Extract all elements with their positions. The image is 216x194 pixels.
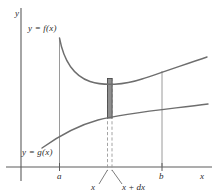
curve-label-f: y = f(x) [28,24,57,33]
y-axis-label: y [15,9,19,18]
x-axis-label: x [200,172,204,181]
curve-f [60,38,208,84]
tick-label-a: a [57,172,62,181]
curve-g [42,104,208,148]
tick-label-x: x [91,183,95,192]
leader-line-x [99,170,108,184]
leader-line-x-plus-dx [112,170,122,184]
figure-container: y x y = f(x) y = g(x) a b x x + dx [0,0,216,194]
tick-label-b: b [159,172,164,181]
curve-label-g: y = g(x) [22,148,53,157]
tick-label-x-plus-dx: x + dx [122,183,145,192]
